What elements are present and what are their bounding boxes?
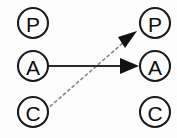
diagram-svg: P A C P A C: [0, 0, 177, 138]
node-right-a[interactable]: A: [140, 51, 170, 81]
node-left-p[interactable]: P: [18, 8, 48, 38]
edge-c-to-p-line: [46, 42, 124, 110]
node-right-c[interactable]: C: [140, 97, 170, 127]
node-left-a[interactable]: A: [18, 51, 48, 81]
node-left-c[interactable]: C: [18, 97, 48, 127]
node-right-a-label: A: [148, 56, 162, 79]
node-right-c-label: C: [147, 102, 162, 125]
edge-a-to-a-arrowhead: [120, 58, 139, 74]
edge-a-to-a: [49, 58, 139, 74]
node-left-p-label: P: [26, 13, 40, 36]
node-right-p[interactable]: P: [140, 8, 170, 38]
diagram-canvas: P A C P A C: [0, 0, 177, 138]
node-right-p-label: P: [148, 13, 162, 36]
node-left-c-label: C: [25, 102, 40, 125]
node-left-a-label: A: [26, 56, 40, 79]
